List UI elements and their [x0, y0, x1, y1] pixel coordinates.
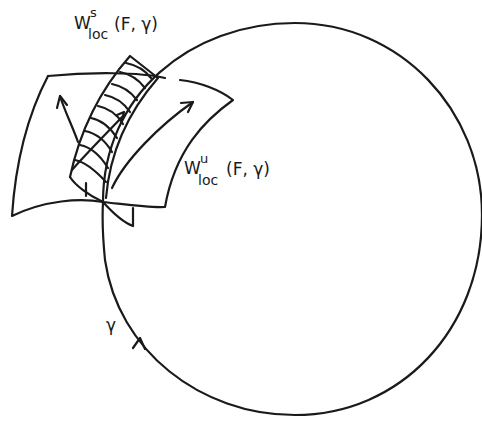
orbit-direction-arrow [133, 338, 145, 349]
svg-text:(F, γ): (F, γ) [114, 14, 158, 34]
periodic-orbit-circle [103, 23, 482, 415]
unstable-manifold-label: W u loc (F, γ) [184, 151, 270, 188]
svg-text:(F, γ): (F, γ) [226, 159, 270, 179]
local-unstable-manifold-sheet [12, 73, 233, 216]
stable-manifold-label: W s loc (F, γ) [74, 5, 158, 42]
svg-text:loc: loc [198, 172, 218, 188]
flow-arrow-left [60, 96, 78, 142]
svg-text:u: u [200, 151, 208, 166]
svg-text:s: s [90, 5, 97, 20]
manifold-diagram: W s loc (F, γ) W u loc (F, γ) γ [0, 0, 482, 433]
orbit-label: γ [106, 315, 116, 335]
svg-text:loc: loc [88, 26, 108, 42]
